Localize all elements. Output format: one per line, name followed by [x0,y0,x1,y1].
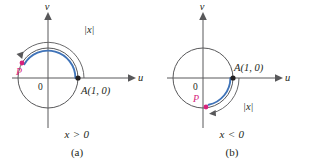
v-axis-arrowhead [44,12,52,20]
u-axis-arrowhead [128,74,136,82]
arc-length-arrowhead [17,52,24,59]
v-axis-arrowhead [199,12,207,20]
unit-circle-figure: v u 0 A(1, 0) P |x| x > 0 (a) [0,0,309,167]
point-p-marker [20,61,25,66]
panel-a: v u 0 A(1, 0) P |x| x > 0 (a) [0,0,154,167]
panel-a-name: (a) [0,146,154,158]
panel-b-condition: x < 0 [155,128,309,140]
point-p-marker [204,105,209,110]
point-p-label: P [192,93,199,104]
v-axis-label: v [45,1,50,12]
v-axis-label: v [200,1,205,12]
panel-a-diagram: v u 0 A(1, 0) P |x| [0,0,154,128]
panel-a-condition: x > 0 [0,128,154,140]
arc-length-arrowhead [209,110,216,116]
point-a-label: A(1, 0) [80,85,111,97]
origin-label: 0 [193,82,198,92]
u-axis-label: u [138,72,143,83]
point-p-label: P [15,66,22,77]
panel-b-name: (b) [155,146,309,158]
panel-b-diagram: v u 0 A(1, 0) P |x| [155,0,309,128]
point-a-marker [230,75,235,80]
u-axis-arrowhead [275,74,283,82]
u-axis-label: u [285,72,290,83]
point-a-label: A(1, 0) [233,62,264,74]
arc-length-label: |x| [84,24,94,35]
panel-b: v u 0 A(1, 0) P |x| x < 0 (b) [155,0,309,167]
arc-length-label: |x| [243,101,253,112]
arc-length-indicator [212,78,240,113]
highlighted-arc [209,78,231,105]
origin-label: 0 [38,82,43,92]
point-a-marker [75,75,80,80]
